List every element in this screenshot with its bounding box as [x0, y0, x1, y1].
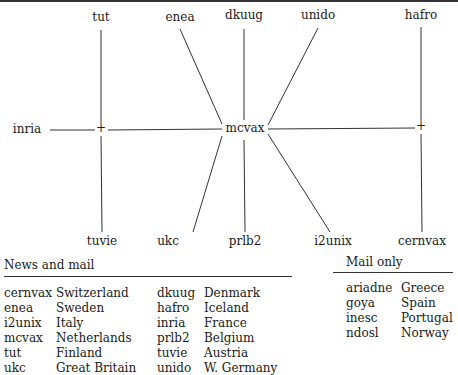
site-name: mcvax [4, 331, 56, 346]
country-name: Switzerland [56, 286, 129, 301]
node-ukc: ukc [157, 234, 179, 248]
junction-right-marker: + [416, 119, 426, 133]
node-prlb2: prlb2 [229, 234, 262, 248]
node-unido: unido [301, 8, 335, 22]
node-i2unix: i2unix [314, 234, 352, 248]
country-name: Greece [401, 281, 444, 296]
table-row: ariadneGreece [346, 281, 453, 296]
country-name: Netherlands [56, 331, 132, 346]
node-dkuug: dkuug [225, 8, 263, 22]
node-hafro: hafro [405, 8, 437, 22]
country-name: Sweden [56, 301, 104, 316]
table-row: dkuugDenmark [157, 286, 277, 301]
site-name: cernvax [4, 286, 56, 301]
country-name: W. Germany [204, 361, 277, 375]
country-name: France [204, 316, 247, 331]
node-inria: inria [13, 122, 41, 136]
node-tuvie: tuvie [87, 234, 117, 248]
country-name: Portugal [401, 311, 453, 326]
country-name: Denmark [204, 286, 260, 301]
site-name: inesc [346, 311, 401, 326]
news-and-mail-rule [4, 276, 292, 277]
table-row: ukcGreat Britain [4, 361, 136, 375]
news-and-mail-table-right: dkuugDenmark hafroIceland inriaFrance pr… [157, 286, 277, 375]
site-name: prlb2 [157, 331, 204, 346]
site-name: dkuug [157, 286, 204, 301]
site-name: goya [346, 296, 401, 311]
table-row: inescPortugal [346, 311, 453, 326]
country-name: Spain [401, 296, 436, 311]
table-row: eneaSweden [4, 301, 136, 316]
site-name: ariadne [346, 281, 401, 296]
country-name: Great Britain [56, 361, 136, 375]
mail-only-rule [333, 272, 453, 273]
site-name: ukc [4, 361, 56, 375]
table-row: mcvaxNetherlands [4, 331, 136, 346]
mail-only-title: Mail only [346, 255, 403, 269]
table-row: cernvaxSwitzerland [4, 286, 136, 301]
site-name: hafro [157, 301, 204, 316]
site-name: unido [157, 361, 204, 375]
table-row: unidoW. Germany [157, 361, 277, 375]
country-name: Norway [401, 326, 449, 341]
table-row: inriaFrance [157, 316, 277, 331]
country-name: Finland [56, 346, 102, 361]
site-name: enea [4, 301, 56, 316]
table-row: i2unixItaly [4, 316, 136, 331]
site-name: inria [157, 316, 204, 331]
country-name: Iceland [204, 301, 249, 316]
node-mcvax: mcvax [226, 121, 265, 135]
country-name: Belgium [204, 331, 254, 346]
site-name: i2unix [4, 316, 56, 331]
site-name: tut [4, 346, 56, 361]
country-name: Austria [204, 346, 248, 361]
table-row: ndoslNorway [346, 326, 453, 341]
junction-left-marker: + [96, 121, 106, 135]
site-name: tuvie [157, 346, 204, 361]
news-and-mail-title: News and mail [4, 258, 94, 272]
country-name: Italy [56, 316, 83, 331]
table-row: tutFinland [4, 346, 136, 361]
table-row: prlb2Belgium [157, 331, 277, 346]
node-enea: enea [165, 10, 194, 24]
mail-only-table: ariadneGreece goyaSpain inescPortugal nd… [346, 281, 453, 341]
news-and-mail-table-left: cernvaxSwitzerland eneaSweden i2unixItal… [4, 286, 136, 375]
table-row: hafroIceland [157, 301, 277, 316]
node-cernvax: cernvax [398, 234, 446, 248]
site-name: ndosl [346, 326, 401, 341]
table-row: tuvieAustria [157, 346, 277, 361]
node-tut: tut [92, 10, 109, 24]
table-row: goyaSpain [346, 296, 453, 311]
